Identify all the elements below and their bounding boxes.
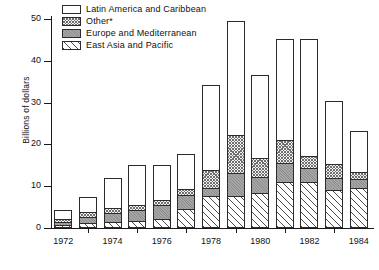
x-axis-tick-label: 1980 [240, 236, 280, 246]
bar-segment-latin-america-and-caribbean [153, 165, 171, 199]
bar-segment-latin-america-and-caribbean [276, 39, 294, 141]
bar-segment-europe-and-mediterranean [251, 177, 269, 194]
x-axis-tick-label: 1976 [142, 236, 182, 246]
bar-segment-other [177, 189, 195, 195]
y-axis-tick [44, 19, 51, 20]
stacked-bar-chart: Billions of dollars 01020304050 Latin Am… [0, 0, 379, 270]
y-axis-tick-label: 40 [1, 56, 41, 65]
bar-segment-europe-and-mediterranean [54, 222, 72, 225]
bar-segment-other [300, 156, 318, 168]
bar-1983 [325, 101, 343, 228]
bar-segment-other [104, 208, 122, 213]
y-axis-tick [44, 103, 51, 104]
x-axis-tick [334, 228, 335, 233]
legend-label-europe: Europe and Mediterranean [86, 28, 197, 38]
bar-segment-east-asia-and-pacific [251, 193, 269, 228]
bar-segment-latin-america-and-caribbean [350, 131, 368, 172]
bar-1984 [350, 131, 368, 228]
bar-segment-east-asia-and-pacific [177, 209, 195, 228]
y-axis-tick [44, 186, 51, 187]
bar-1977 [177, 154, 195, 228]
bar-segment-east-asia-and-pacific [350, 188, 368, 228]
bar-segment-europe-and-mediterranean [227, 173, 245, 196]
y-axis-tick-label: 0 [1, 223, 41, 232]
legend-swatch-europe [62, 29, 81, 38]
legend-label-asia: East Asia and Pacific [86, 40, 173, 50]
bar-segment-east-asia-and-pacific [104, 222, 122, 228]
legend-item-latin: Latin America and Caribbean [62, 3, 262, 15]
x-axis-tick-label: 1978 [191, 236, 231, 246]
bar-segment-europe-and-mediterranean [276, 163, 294, 182]
x-axis-line [44, 228, 374, 229]
bar-segment-europe-and-mediterranean [202, 188, 220, 196]
bar-1973 [79, 197, 97, 228]
bar-segment-east-asia-and-pacific [153, 219, 171, 228]
bar-segment-europe-and-mediterranean [350, 179, 368, 188]
bar-segment-latin-america-and-caribbean [79, 197, 97, 212]
bar-segment-other [350, 172, 368, 178]
bar-segment-europe-and-mediterranean [104, 213, 122, 221]
y-axis-tick [44, 228, 51, 229]
bar-segment-other [54, 219, 72, 222]
y-axis-tick-label: 10 [1, 181, 41, 190]
bar-segment-latin-america-and-caribbean [325, 101, 343, 164]
bar-1976 [153, 165, 171, 228]
bar-1972 [54, 210, 72, 228]
legend-swatch-asia [62, 41, 81, 50]
y-axis-tick-label: 50 [1, 14, 41, 23]
x-axis-tick [137, 228, 138, 233]
bar-1979 [227, 21, 245, 228]
y-axis-tick-label: 20 [1, 139, 41, 148]
bar-segment-east-asia-and-pacific [227, 196, 245, 228]
y-axis-tick-label: 30 [1, 98, 41, 107]
bar-1982 [300, 39, 318, 228]
bar-1981 [276, 39, 294, 228]
bar-1974 [104, 178, 122, 228]
y-axis-tick [44, 144, 51, 145]
bar-segment-other [202, 170, 220, 188]
bar-1975 [128, 165, 146, 228]
bar-segment-other [79, 212, 97, 217]
bar-segment-other [325, 164, 343, 178]
bar-segment-east-asia-and-pacific [202, 196, 220, 228]
bar-segment-europe-and-mediterranean [153, 205, 171, 219]
bar-segment-europe-and-mediterranean [325, 178, 343, 191]
bar-segment-latin-america-and-caribbean [227, 21, 245, 135]
bar-segment-other [276, 140, 294, 163]
bar-segment-east-asia-and-pacific [300, 182, 318, 228]
y-axis-tick-labels: 01020304050 [0, 0, 41, 270]
x-axis-tick [88, 228, 89, 233]
legend-swatch-latin [62, 5, 81, 14]
legend-label-latin: Latin America and Caribbean [86, 4, 206, 14]
bar-segment-europe-and-mediterranean [128, 210, 146, 221]
x-axis-tick [186, 228, 187, 233]
bar-segment-europe-and-mediterranean [300, 168, 318, 182]
bar-1978 [202, 85, 220, 228]
x-axis-tick-label: 1984 [339, 236, 379, 246]
bar-segment-latin-america-and-caribbean [177, 154, 195, 188]
x-axis-tick-label: 1972 [43, 236, 83, 246]
x-axis-tick-label: 1982 [289, 236, 329, 246]
legend-label-other: Other* [86, 16, 113, 26]
bar-segment-east-asia-and-pacific [276, 182, 294, 228]
bar-segment-latin-america-and-caribbean [202, 85, 220, 170]
bar-segment-other [227, 135, 245, 173]
y-axis-tick [44, 61, 51, 62]
bar-segment-east-asia-and-pacific [325, 190, 343, 228]
bar-segment-other [251, 158, 269, 177]
bar-segment-other [128, 205, 146, 210]
bar-segment-latin-america-and-caribbean [104, 178, 122, 208]
bar-segment-east-asia-and-pacific [128, 221, 146, 228]
bar-segment-east-asia-and-pacific [54, 225, 72, 228]
bar-segment-latin-america-and-caribbean [128, 165, 146, 204]
bar-1980 [251, 75, 269, 228]
bar-segment-europe-and-mediterranean [177, 195, 195, 209]
bar-segment-europe-and-mediterranean [79, 217, 97, 223]
bar-segment-latin-america-and-caribbean [300, 39, 318, 156]
x-axis-tick [285, 228, 286, 233]
bar-segment-latin-america-and-caribbean [251, 75, 269, 158]
legend-swatch-other [62, 17, 81, 26]
bar-segment-other [153, 200, 171, 205]
x-axis-tick-label: 1974 [93, 236, 133, 246]
bar-segment-latin-america-and-caribbean [54, 210, 72, 219]
